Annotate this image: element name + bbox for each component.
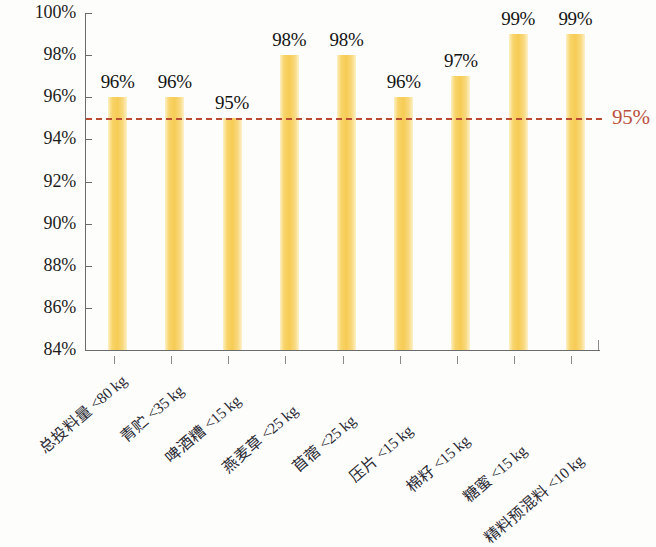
- x-axis-tick: [343, 356, 344, 364]
- y-axis-tick: [85, 266, 92, 267]
- bar: [566, 34, 585, 350]
- y-axis-tick-label: 88%: [2, 255, 76, 276]
- x-axis-tick: [457, 356, 458, 364]
- x-axis-tick: [571, 356, 572, 364]
- bar: [223, 118, 242, 350]
- bar: [165, 97, 184, 350]
- y-axis-tick-label: 84%: [2, 339, 76, 360]
- x-axis-right-cap: [598, 340, 599, 350]
- bar: [509, 34, 528, 350]
- y-axis-tick: [85, 350, 92, 351]
- y-axis-tick: [85, 139, 92, 140]
- bar-value-label: 98%: [312, 29, 382, 51]
- y-axis-tick: [85, 97, 92, 98]
- y-axis-tick: [85, 308, 92, 309]
- y-axis-tick: [85, 55, 92, 56]
- bar-value-label: 96%: [369, 71, 439, 93]
- y-axis-tick-label: 98%: [2, 44, 76, 65]
- y-axis-tick: [85, 224, 92, 225]
- bar-value-label: 96%: [140, 71, 210, 93]
- y-axis-tick-label: 94%: [2, 128, 76, 149]
- bar: [280, 55, 299, 350]
- bar-value-label: 95%: [197, 92, 267, 114]
- bar: [337, 55, 356, 350]
- bar-value-label: 97%: [426, 50, 496, 72]
- x-axis-line: [85, 350, 600, 351]
- x-axis-tick: [228, 356, 229, 364]
- x-axis-tick: [114, 356, 115, 364]
- bar: [394, 97, 413, 350]
- y-axis-tick-label: 92%: [2, 171, 76, 192]
- y-axis-top-cap: [85, 13, 92, 14]
- y-axis-tick-label: 100%: [2, 2, 76, 23]
- reference-line-95: [86, 118, 602, 120]
- x-axis-tick: [400, 356, 401, 364]
- x-axis-tick: [514, 356, 515, 364]
- x-axis-tick: [285, 356, 286, 364]
- bar-value-label: 99%: [540, 8, 610, 30]
- reference-line-label: 95%: [612, 105, 650, 130]
- bar: [451, 76, 470, 350]
- y-axis-tick-label: 96%: [2, 86, 76, 107]
- bar: [108, 97, 127, 350]
- x-axis-tick: [171, 356, 172, 364]
- y-axis-tick: [85, 182, 92, 183]
- y-axis-tick-label: 86%: [2, 297, 76, 318]
- y-axis-tick-label: 90%: [2, 213, 76, 234]
